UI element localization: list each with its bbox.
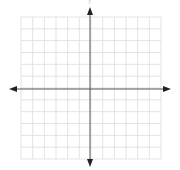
coordinate-plane: [0, 0, 180, 170]
arrow-left-icon: [9, 86, 17, 92]
y-axis: [87, 7, 93, 167]
grid-lines: [21, 17, 161, 159]
arrow-up-icon: [87, 7, 93, 15]
arrow-down-icon: [87, 159, 93, 167]
arrow-right-icon: [163, 86, 171, 92]
